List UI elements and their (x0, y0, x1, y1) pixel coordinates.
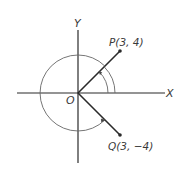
origin-label: O (66, 94, 75, 107)
point-q (118, 133, 122, 137)
arc-angle-xop-inner (99, 72, 108, 93)
ray-oq (78, 93, 120, 135)
x-axis-label: X (165, 87, 174, 100)
coordinate-diagram: Y X O P(3, 4) Q(3, −4) (0, 0, 181, 178)
arc-angle-xop-outer (104, 67, 115, 93)
point-p (118, 49, 122, 53)
y-axis-label: Y (74, 17, 82, 30)
point-q-label: Q(3, −4) (108, 140, 153, 152)
point-p-label: P(3, 4) (109, 36, 144, 48)
